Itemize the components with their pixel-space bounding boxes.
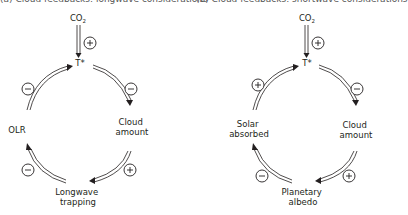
forcing-arrow (304, 25, 310, 58)
plus-sign-icon (252, 79, 264, 91)
node-olr: OLR (8, 125, 25, 135)
t-star-label: T* (74, 58, 84, 68)
plus-sign-icon (84, 37, 96, 49)
minus-sign-icon (125, 83, 137, 95)
node-solar-absorbed: Solar absorbed (229, 119, 269, 139)
plus-sign-icon (312, 37, 324, 49)
node-cloud-amount: Cloud amount (116, 117, 149, 137)
minus-sign-icon (256, 170, 268, 182)
node-longwave-trapping: Longwave trapping (55, 187, 101, 207)
forcing-arrow (76, 25, 82, 58)
plus-sign-icon (124, 164, 136, 176)
node-planetary-albedo: Planetary albedo (281, 187, 324, 207)
co2-label: CO2 (299, 13, 315, 24)
t-star-label: T* (301, 58, 311, 68)
co2-label: CO2 (70, 13, 86, 24)
plus-sign-icon (343, 170, 355, 182)
minus-sign-icon (22, 164, 34, 176)
node-cloud-amount: Cloud amount (340, 120, 373, 140)
minus-sign-icon (22, 83, 34, 95)
panel-b: CO2 T* Cloud amount (229, 13, 373, 207)
panel-a: CO2 T* Cloud amount (8, 13, 149, 207)
minus-sign-icon (351, 83, 363, 95)
arrow-longwave-to-olr (26, 143, 66, 183)
